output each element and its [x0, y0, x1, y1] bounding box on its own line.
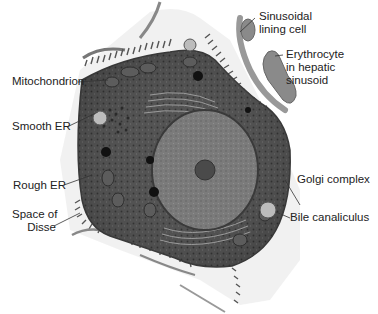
nucleolus	[195, 160, 215, 180]
label-sinusoidal-lining-cell: Sinusoidal lining cell	[259, 10, 312, 36]
label-rough-er: Rough ER	[13, 179, 66, 192]
label-erythrocyte: Erythrocyte in hepatic sinusoid	[286, 48, 344, 87]
label-mitochondrion: Mitochondrion	[12, 75, 84, 88]
label-smooth-er: Smooth ER	[12, 120, 71, 133]
label-bile-canaliculus: Bile canaliculus	[290, 211, 369, 224]
label-golgi-complex: Golgi complex	[297, 173, 370, 186]
bile-canaliculus-shape	[260, 202, 276, 218]
hepatocyte-diagram: Sinusoidal lining cell Erythrocyte in he…	[0, 0, 378, 314]
label-space-of-disse: Space of Disse	[12, 208, 56, 234]
